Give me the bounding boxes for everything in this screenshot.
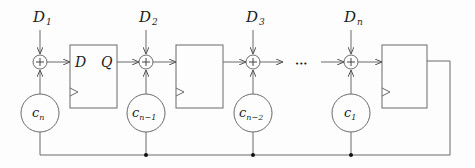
input-label-1: D1 xyxy=(32,8,52,27)
junction-dot-2 xyxy=(251,153,255,157)
coef-label-2: cn−1 xyxy=(132,105,156,122)
input-label-3: D3 xyxy=(245,8,265,27)
input-label-2: D2 xyxy=(138,8,158,27)
coef-label-n: c1 xyxy=(344,105,356,122)
ellipsis: ••• xyxy=(295,60,307,68)
coef-label-3: cn−2 xyxy=(239,105,263,122)
clock-icon-2 xyxy=(176,88,184,96)
coef-label-1: cn xyxy=(32,105,44,122)
junction-dot-3 xyxy=(349,153,353,157)
lfsr-diagram: ••• D1 D2 D3 Dn D Q cn cn−1 cn−2 c1 xyxy=(0,0,475,168)
register-q-label: Q xyxy=(101,54,113,70)
junction-dot-1 xyxy=(144,153,148,157)
input-label-n: Dn xyxy=(343,8,363,27)
register-d-label: D xyxy=(74,54,86,70)
clock-icon-1 xyxy=(70,88,78,96)
register-2 xyxy=(176,45,223,108)
register-n xyxy=(382,45,427,108)
clock-icon-n xyxy=(382,88,390,96)
